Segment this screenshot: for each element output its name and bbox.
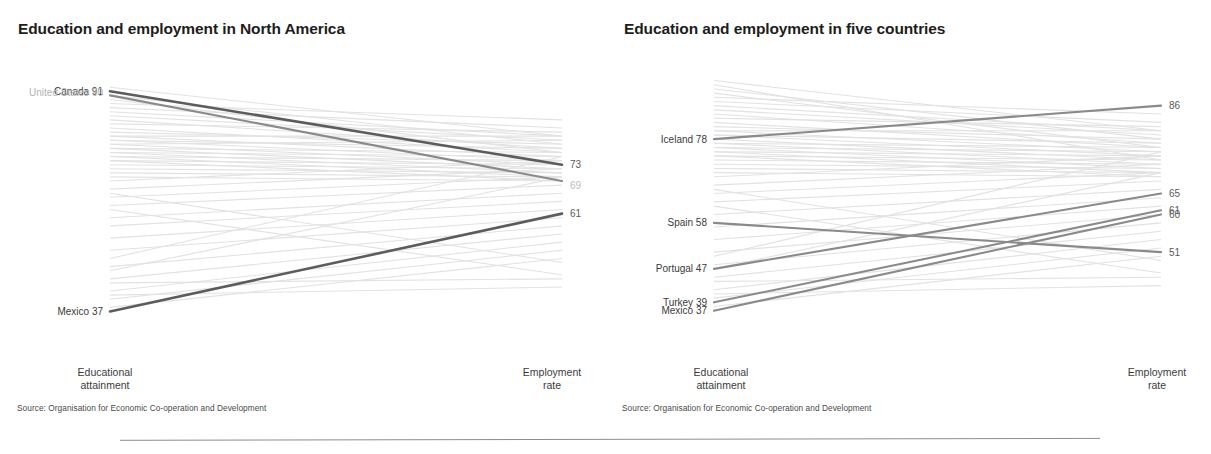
slopegraph-right: Iceland 7886Spain 5851Portugal 4765Turke… — [606, 0, 1211, 400]
slope-line-turkey — [714, 210, 1161, 302]
axis-label-educational-attainment-right: Educational attainment — [666, 366, 776, 391]
bottom-divider — [120, 438, 1100, 441]
left-label-united-states: United States 90 — [29, 87, 103, 98]
slopegraph-left-svg: Canada 9173United States 9069Mexico 3761 — [0, 0, 606, 400]
right-label-canada: 73 — [570, 159, 582, 170]
right-label-portugal: 65 — [1169, 188, 1181, 199]
background-lines — [714, 81, 1161, 307]
slopegraph-left: Canada 9173United States 9069Mexico 3761 — [0, 0, 606, 400]
background-lines — [110, 87, 562, 307]
left-label-iceland: Iceland 78 — [661, 134, 708, 145]
source-note-left: Source: Organisation for Economic Co-ope… — [17, 403, 266, 413]
right-label-mexico: 61 — [570, 208, 582, 219]
panel-north-america: Education and employment in North Americ… — [0, 0, 606, 454]
slope-line-united-states — [110, 95, 562, 181]
slopegraph-figure: Education and employment in North Americ… — [0, 0, 1211, 454]
slope-line-portugal — [714, 194, 1161, 269]
axis-label-employment-rate-right: Employment rate — [1102, 366, 1211, 391]
left-label-portugal: Portugal 47 — [656, 263, 708, 274]
axis-label-employment-rate-left: Employment rate — [497, 366, 607, 391]
panel-five-countries: Education and employment in five countri… — [606, 0, 1211, 454]
right-label-spain: 51 — [1169, 247, 1181, 258]
slope-line-canada — [110, 91, 562, 164]
source-note-right: Source: Organisation for Economic Co-ope… — [622, 403, 871, 413]
slope-line-spain — [714, 223, 1161, 252]
left-label-mexico: Mexico 37 — [661, 305, 707, 316]
axis-label-educational-attainment-left: Educational attainment — [50, 366, 160, 391]
right-label-iceland: 86 — [1169, 100, 1181, 111]
slope-line-iceland — [714, 106, 1161, 139]
right-label-mexico: 60 — [1169, 209, 1181, 220]
left-label-spain: Spain 58 — [668, 217, 708, 228]
slopegraph-right-svg: Iceland 7886Spain 5851Portugal 4765Turke… — [606, 0, 1211, 400]
left-label-mexico: Mexico 37 — [57, 306, 103, 317]
right-label-united-states: 69 — [570, 180, 582, 191]
